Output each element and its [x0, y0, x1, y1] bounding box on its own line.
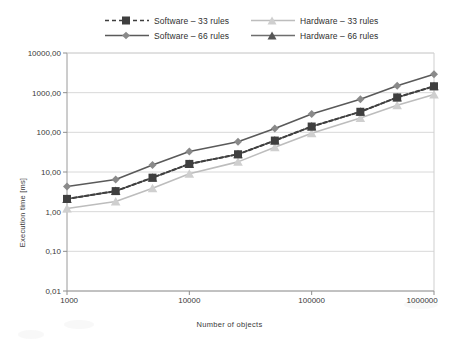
- y-axis-title: Execution time [ms]: [18, 163, 27, 263]
- series-2: [63, 70, 438, 190]
- plot-area: [0, 0, 459, 346]
- series-3: [62, 82, 439, 203]
- plot-frame: [63, 53, 434, 295]
- series-0: [63, 82, 438, 203]
- x-axis-title: Number of objects: [0, 320, 459, 329]
- x-tick-label: 100000: [298, 296, 325, 305]
- execution-time-chart: Software – 33 rules Hardware – 33 rules: [0, 0, 459, 346]
- x-tick-label: 10000: [178, 296, 200, 305]
- series-layer: [62, 70, 439, 212]
- x-tick-label: 1000000: [407, 296, 438, 305]
- x-tick-label: 1000: [60, 296, 78, 305]
- gridlines: [67, 53, 434, 291]
